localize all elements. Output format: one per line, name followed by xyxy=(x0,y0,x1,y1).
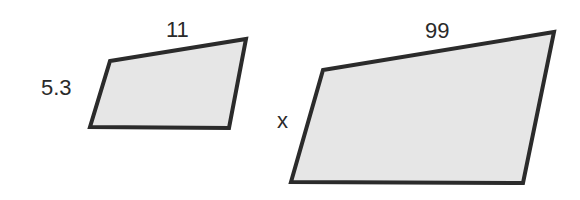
large-top-side-label: 99 xyxy=(425,20,449,42)
small-top-side-label: 11 xyxy=(166,19,189,41)
small-quadrilateral xyxy=(90,39,246,128)
large-quadrilateral xyxy=(291,32,554,183)
large-left-side-label: x xyxy=(277,110,288,132)
diagram-canvas xyxy=(0,0,580,200)
small-left-side-label: 5.3 xyxy=(41,77,72,99)
